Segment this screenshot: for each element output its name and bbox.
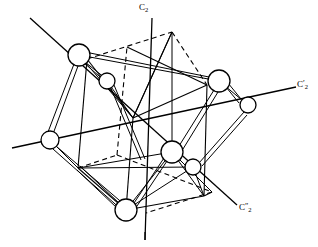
atom-medium-left[interactable] [41,131,59,149]
bond-line-e [78,152,172,168]
double-bond-smallmid-to-bfl [110,85,145,160]
atom-large-right[interactable] [208,70,230,92]
figure-container: C2 C′2 C″2 [0,0,318,247]
axis-label-c2-main-subscript: 2 [145,6,148,13]
double-bond-rail-2 [77,170,117,208]
axis-label-c2-double-prime-subscript: 2 [248,206,251,213]
atom-small-right[interactable] [240,97,256,113]
cube-edge-bottom-right-back [146,192,212,213]
double-bond-rail-2 [202,115,247,166]
double-bond-rail-1 [48,64,74,132]
double-bond-rail-2 [53,66,78,134]
double-bond-rail-1 [110,86,141,160]
axis-c2-main [145,18,152,240]
atom-small-upper-mid[interactable] [99,73,115,89]
double-bond-right-to-center [179,90,218,149]
bond-line-j [78,167,193,168]
double-bond-rail-2 [114,85,145,159]
axis-label-c2-double-prime: C″2 [239,203,252,212]
double-bond-rail-1 [228,83,241,99]
atom-large-bottom[interactable] [115,199,137,221]
axis-label-c2-prime: C′2 [297,80,308,89]
cube-edge-bottom-right-link [204,192,212,196]
atom-small-center-right[interactable] [185,159,201,175]
double-bond-tl-to-left [48,64,78,134]
double-bond-rail-2 [183,92,218,149]
double-bond-rail-1 [80,166,120,204]
cube-edge-top-front-right [133,85,207,118]
structure-diagram [0,0,318,247]
axis-label-c2-main: C2 [139,3,148,12]
cube-edge-bottom-left-back [78,155,117,168]
axis-label-c2-prime-subscript: 2 [305,83,308,90]
atom-large-center[interactable] [161,141,183,163]
double-bond-rail-1 [179,90,214,146]
atom-large-top-left[interactable] [68,44,90,66]
cube-edge-vertical-left [78,59,87,168]
bond-line-c [133,32,172,118]
